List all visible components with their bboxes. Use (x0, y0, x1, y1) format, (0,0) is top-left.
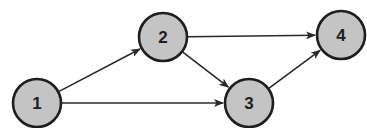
node-1: 1 (13, 79, 61, 127)
edge-2-to-4 (188, 35, 315, 36)
node-3: 3 (225, 79, 273, 127)
node-label: 1 (32, 94, 41, 113)
directed-graph: 1234 (0, 0, 367, 128)
edge-1-to-2 (59, 49, 140, 91)
node-label: 2 (158, 28, 167, 47)
node-label: 4 (336, 26, 346, 45)
edges-group (59, 35, 320, 103)
node-4: 4 (317, 11, 365, 59)
node-label: 3 (244, 94, 253, 113)
nodes-group: 1234 (13, 11, 365, 127)
edge-3-to-4 (269, 50, 320, 88)
edge-2-to-3 (183, 52, 229, 87)
node-2: 2 (139, 13, 187, 61)
